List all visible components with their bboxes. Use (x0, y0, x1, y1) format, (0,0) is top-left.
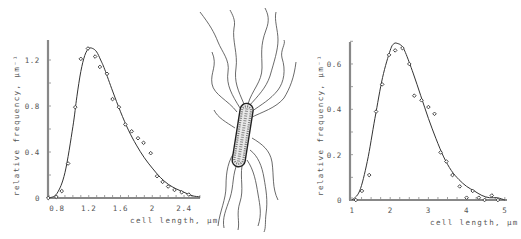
right-ticks (350, 41, 505, 200)
x-tick-label: 4 (464, 206, 469, 215)
right-x-axis-label: cell length, μm (430, 218, 519, 227)
x-tick-label: 1 (349, 206, 354, 215)
y-tick-label: 0 (35, 194, 40, 203)
data-point (111, 97, 115, 101)
right-y-axis-label: relative frequency, μm⁻¹ (316, 54, 325, 196)
data-point (130, 130, 134, 134)
right-fit-curve (352, 43, 505, 200)
x-tick-label: 2 (388, 206, 393, 215)
data-point (393, 49, 397, 53)
y-tick-label: 0 (337, 196, 342, 205)
x-tick-label: 1.2 (81, 204, 96, 213)
left-ticks (48, 60, 200, 198)
left-x-axis-label: cell length, μm (130, 216, 219, 225)
data-point (73, 105, 77, 109)
data-point (93, 55, 97, 59)
data-point (496, 198, 500, 202)
right-data-points (354, 46, 500, 201)
data-point (367, 173, 371, 177)
y-tick-label: 1.2 (25, 56, 40, 65)
y-tick-label: 0.6 (327, 60, 342, 69)
y-tick-label: 0.8 (25, 102, 40, 111)
data-point (354, 198, 358, 202)
data-point (458, 185, 462, 189)
left-y-axis-label: relative frequency, μm⁻¹ (12, 54, 21, 196)
x-tick-label: 0.8 (49, 204, 64, 213)
data-point (86, 47, 90, 51)
data-point (187, 193, 191, 197)
y-tick-label: 0.4 (25, 148, 40, 157)
bacterium-icon (200, 8, 296, 232)
data-point (136, 136, 140, 140)
x-tick-label: 2 (150, 204, 155, 213)
left-data-points (46, 47, 190, 200)
data-point (149, 151, 153, 155)
y-tick-label: 0.2 (327, 151, 342, 160)
x-tick-label: 1.6 (113, 204, 128, 213)
x-tick-label: 2.4 (176, 204, 191, 213)
figure: 00.40.81.20.81.21.622.4 relative frequen… (0, 0, 521, 239)
left-chart: 00.40.81.20.81.21.622.4 relative frequen… (12, 40, 219, 225)
data-point (98, 65, 102, 69)
x-tick-label: 3 (426, 206, 431, 215)
data-point (79, 57, 83, 61)
data-point (142, 141, 146, 145)
data-point (374, 110, 378, 114)
data-point (427, 105, 431, 109)
data-point (433, 112, 437, 116)
data-point (490, 194, 494, 198)
y-tick-label: 0.4 (327, 105, 342, 114)
x-tick-label: 5 (502, 206, 507, 215)
right-chart: 00.20.40.612345 relative frequency, μm⁻¹… (316, 41, 519, 227)
data-point (412, 94, 416, 98)
data-point (60, 189, 64, 193)
data-point (360, 189, 364, 193)
